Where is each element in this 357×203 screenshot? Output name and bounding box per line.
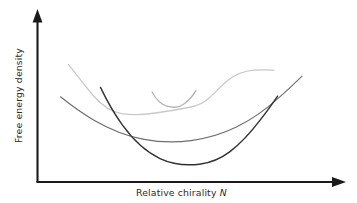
plot-canvas: Relative chirality N Free energy density <box>0 0 357 203</box>
x-axis-label-text: Relative chirality <box>136 187 217 198</box>
axis-labels-group: Relative chirality N Free energy density <box>13 48 227 198</box>
y-axis-label: Free energy density <box>13 48 24 143</box>
x-axis-arrowhead <box>332 177 346 187</box>
curves-group <box>61 65 303 165</box>
axes-group <box>33 9 346 187</box>
x-axis-label-symbol: N <box>220 187 227 198</box>
curve-secondary-well <box>152 91 196 108</box>
figure-root: Relative chirality N Free energy density <box>0 0 357 203</box>
x-axis-label: Relative chirality N <box>136 187 227 198</box>
y-axis-arrowhead <box>33 9 43 23</box>
